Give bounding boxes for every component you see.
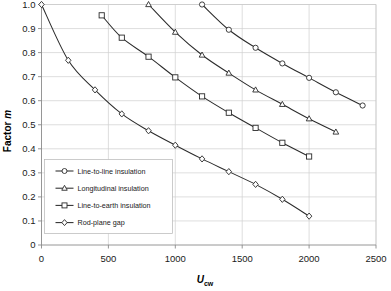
data-point-diamond bbox=[146, 128, 151, 134]
series-line bbox=[102, 15, 309, 156]
legend-label: Rod-plane gap bbox=[78, 218, 125, 227]
data-point-square bbox=[226, 110, 231, 115]
data-point-triangle bbox=[306, 116, 312, 121]
data-point-circle bbox=[226, 27, 231, 32]
data-point-diamond bbox=[199, 156, 204, 162]
data-point-diamond bbox=[226, 169, 231, 175]
y-tick-label: 0.3 bbox=[22, 167, 35, 178]
data-point-circle bbox=[360, 103, 365, 108]
data-point-diamond bbox=[119, 111, 124, 117]
data-point-square bbox=[99, 13, 104, 18]
data-point-square bbox=[62, 203, 67, 208]
series-line bbox=[202, 5, 363, 106]
data-point-circle bbox=[199, 2, 204, 7]
data-point-diamond bbox=[253, 181, 258, 187]
y-axis-title-main: Factor bbox=[2, 119, 13, 152]
data-point-diamond bbox=[173, 142, 178, 148]
data-point-triangle bbox=[226, 70, 232, 75]
data-point-circle bbox=[307, 75, 312, 80]
x-tick-label: 1500 bbox=[232, 253, 253, 264]
y-tick-label: 0.6 bbox=[22, 95, 35, 106]
y-tick-label: 0.7 bbox=[22, 71, 35, 82]
y-tick-label: 0.4 bbox=[22, 143, 35, 154]
y-tick-label: 0.9 bbox=[22, 23, 35, 34]
y-tick-label: 0.8 bbox=[22, 47, 35, 58]
data-point-circle bbox=[62, 169, 67, 174]
data-point-diamond bbox=[39, 1, 44, 7]
x-tick-label: 2000 bbox=[299, 253, 320, 264]
chart-container: 00.10.20.30.40.50.60.70.80.91.0050010001… bbox=[0, 0, 391, 291]
data-point-square bbox=[146, 54, 151, 59]
y-tick-label: 0.1 bbox=[22, 215, 35, 226]
data-point-triangle bbox=[146, 2, 152, 7]
data-point-square bbox=[199, 94, 204, 99]
legend-label: Line-to-earth insulation bbox=[78, 201, 151, 210]
x-tick-label: 0 bbox=[39, 253, 44, 264]
x-axis-title: Ucw bbox=[197, 274, 214, 287]
data-point-square bbox=[173, 75, 178, 80]
x-axis-title-subscript: cw bbox=[204, 280, 214, 287]
series-line-to-line-insulation bbox=[199, 2, 365, 108]
x-tick-label: 1000 bbox=[165, 253, 186, 264]
data-point-square bbox=[307, 154, 312, 159]
chart-legend: Line-to-line insulationLongitudinal insu… bbox=[45, 160, 173, 234]
data-point-circle bbox=[333, 90, 338, 95]
data-point-diamond bbox=[306, 213, 311, 219]
data-point-circle bbox=[280, 61, 285, 66]
data-point-triangle bbox=[253, 87, 259, 92]
data-point-square bbox=[280, 140, 285, 145]
y-axis-title: Factor m bbox=[2, 110, 13, 152]
legend-label: Longitudinal insulation bbox=[78, 184, 149, 193]
line-chart: 00.10.20.30.40.50.60.70.80.91.0050010001… bbox=[0, 0, 391, 291]
data-point-square bbox=[119, 35, 124, 40]
x-tick-label: 500 bbox=[100, 253, 116, 264]
data-point-circle bbox=[253, 45, 258, 50]
data-point-square bbox=[253, 125, 258, 130]
y-tick-label: 0.2 bbox=[22, 191, 35, 202]
series-line-to-earth-insulation bbox=[99, 13, 312, 159]
data-point-triangle bbox=[279, 101, 285, 106]
x-tick-label: 2500 bbox=[365, 253, 386, 264]
y-axis-title-symbol: m bbox=[2, 110, 13, 119]
y-tick-label: 0 bbox=[30, 239, 35, 250]
y-tick-label: 1.0 bbox=[22, 0, 35, 10]
y-tick-label: 0.5 bbox=[22, 119, 35, 130]
legend-label: Line-to-line insulation bbox=[78, 167, 146, 176]
